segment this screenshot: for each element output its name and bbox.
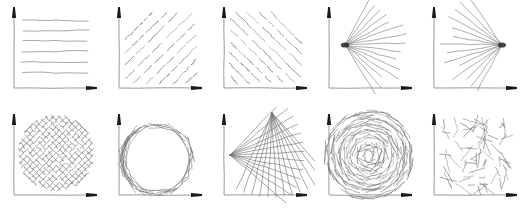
panel-fan-from-right	[420, 0, 523, 107]
pattern-grid	[0, 0, 523, 215]
x-axis-arrowhead	[296, 193, 307, 197]
y-axis-arrowhead	[222, 114, 226, 125]
x-axis-arrowhead	[191, 86, 202, 90]
y-axis-arrowhead	[117, 7, 121, 18]
pattern-diagonal-lines-up	[126, 12, 198, 84]
pattern-horizontal-lines	[21, 20, 89, 73]
panel-crossed-fans-mesh	[210, 107, 315, 214]
panel-diagonal-lines-up	[105, 0, 210, 107]
x-axis-arrowhead	[401, 193, 412, 197]
x-axis-arrowhead	[296, 86, 307, 90]
panel-random-scatter	[420, 107, 523, 214]
x-axis-arrowhead	[191, 193, 202, 197]
pattern-spiral-swirl	[324, 110, 413, 200]
pattern-crosshatch-grid	[19, 115, 94, 190]
x-axis-arrowhead	[506, 193, 517, 197]
panel-crosshatch-grid	[0, 107, 105, 214]
axes	[12, 7, 97, 90]
pattern-circle-envelope	[117, 123, 194, 195]
axes	[327, 7, 412, 90]
y-axis-arrowhead	[432, 7, 436, 18]
y-axis-arrowhead	[432, 114, 436, 125]
pattern-diagonal-lines-down	[229, 12, 301, 84]
panel-horizontal-lines	[0, 0, 105, 107]
y-axis-arrowhead	[222, 7, 226, 18]
pattern-random-scatter	[440, 115, 513, 195]
panel-spiral-swirl	[315, 107, 420, 214]
y-axis-arrowhead	[12, 7, 16, 18]
pattern-fan-from-left	[341, 0, 407, 94]
pattern-fan-from-right	[440, 0, 506, 91]
y-axis-arrowhead	[117, 114, 121, 125]
x-axis-arrowhead	[401, 86, 412, 90]
pattern-crossed-fans-mesh	[230, 107, 315, 203]
y-axis-arrowhead	[327, 114, 331, 125]
x-axis-arrowhead	[86, 193, 97, 197]
axes	[432, 7, 517, 90]
panel-circle-envelope	[105, 107, 210, 214]
x-axis-arrowhead	[506, 86, 517, 90]
y-axis-arrowhead	[327, 7, 331, 18]
panel-diagonal-lines-down	[210, 0, 315, 107]
panel-fan-from-left	[315, 0, 420, 107]
axes	[222, 7, 307, 90]
x-axis-arrowhead	[86, 86, 97, 90]
y-axis-arrowhead	[12, 114, 16, 125]
